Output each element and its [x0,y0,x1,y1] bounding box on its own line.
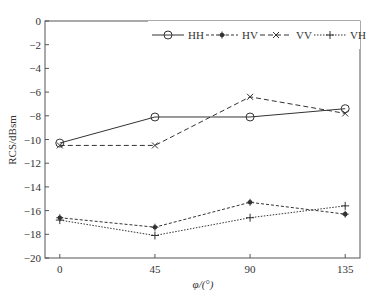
y-tick-label: −16 [24,205,42,217]
legend-label: VV [296,29,312,41]
y-tick-label: −18 [24,228,42,240]
series-vh [56,202,349,240]
x-tick-label: 90 [245,263,257,275]
y-tick-label: −20 [24,252,42,264]
x-tick-label: 45 [149,263,161,275]
y-tick-label: 0 [36,15,42,27]
data-series [56,94,349,240]
legend-label: HV [242,29,258,41]
y-tick-label: −12 [24,157,41,169]
y-tick-label: −14 [24,181,42,193]
y-tick-label: −2 [29,39,41,51]
y-tick-label: −4 [29,62,41,74]
legend-label: VH [350,29,366,41]
plot-frame [45,21,360,258]
x-tick-label: 0 [57,263,63,275]
series-vv [57,94,348,149]
x-axis-label: φ/(°) [193,278,214,291]
series-hv [56,199,348,231]
series-hh [56,105,349,147]
y-tick-label: −8 [29,110,41,122]
rcs-line-chart: 0−2−4−6−8−10−12−14−16−18−2004590135 HHHV… [0,0,374,296]
legend: HHHVVVVH [148,21,366,49]
y-axis-label: RCS/dBsm [6,115,18,165]
y-tick-label: −10 [24,134,42,146]
y-tick-label: −6 [29,86,41,98]
plot-axes: 0−2−4−6−8−10−12−14−16−18−2004590135 [24,15,360,275]
legend-label: HH [188,29,204,41]
x-tick-label: 135 [337,263,354,275]
